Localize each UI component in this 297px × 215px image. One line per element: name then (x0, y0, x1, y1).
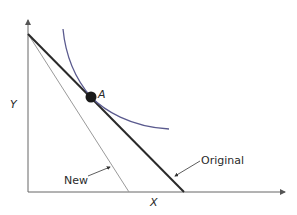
original-label: Original (201, 154, 244, 167)
original-pointer (175, 161, 200, 176)
new-pointer (88, 167, 110, 176)
diagram-canvas: Original New A Y X (0, 0, 297, 215)
y-axis-label: Y (10, 98, 18, 111)
new-label: New (64, 174, 88, 187)
x-axis-label: X (149, 196, 158, 209)
point-a-marker (86, 92, 97, 103)
new-budget-line (28, 34, 129, 192)
point-a-label: A (97, 88, 106, 101)
